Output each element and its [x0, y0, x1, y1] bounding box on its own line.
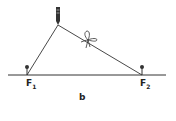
pin-f2-icon	[140, 65, 144, 75]
focus-label-f2: F2	[140, 79, 150, 90]
ellipse-string-diagram	[0, 0, 176, 121]
focus-label-f1: F1	[26, 79, 36, 90]
knot-icon	[81, 31, 97, 48]
caption-label: b	[79, 93, 85, 102]
string-f1-to-pencil	[27, 25, 58, 75]
pencil-icon	[56, 7, 60, 25]
string-pencil-to-f2	[58, 25, 142, 75]
